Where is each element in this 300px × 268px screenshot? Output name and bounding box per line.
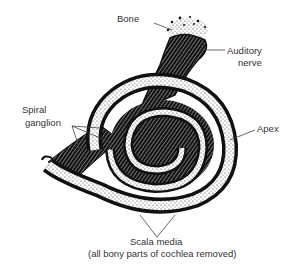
figure-caption: (all bony parts of cochlea removed) bbox=[88, 248, 236, 259]
cochlea-illustration bbox=[0, 0, 300, 268]
label-auditory-nerve-1: Auditory bbox=[227, 45, 262, 56]
label-apex: Apex bbox=[257, 123, 279, 134]
label-auditory-nerve-2: nerve bbox=[238, 57, 262, 68]
label-spiral-ganglion-1: Spiral bbox=[22, 104, 46, 115]
label-bone: Bone bbox=[117, 13, 139, 24]
label-scala-media: Scala media bbox=[130, 236, 182, 247]
label-spiral-ganglion-2: ganglion bbox=[25, 117, 61, 128]
